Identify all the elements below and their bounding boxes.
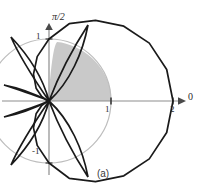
- horizontal-axis-arrow-icon: [178, 97, 186, 105]
- polar-plot-canvas: [0, 0, 206, 189]
- axis-label-zero: 0: [188, 92, 193, 102]
- figure-caption: (a): [0, 168, 206, 179]
- tick-label-vertical-one: 1: [36, 32, 41, 41]
- vertical-axis-arrow-icon: [45, 23, 53, 30]
- tick-label-vertical-negative-one: -1: [32, 147, 40, 156]
- rose-petal-left-upper-outer: [4, 85, 49, 101]
- polar-figure: π/2 0 1 -1 1 2 (a): [0, 0, 206, 189]
- tick-label-horizontal-one: 1: [105, 105, 110, 114]
- tick-label-horizontal-two: 2: [170, 105, 175, 114]
- rose-petal-lower-right: [49, 101, 88, 177]
- axis-label-pi-over-2: π/2: [52, 12, 65, 22]
- rose-petal-left-lower-outer: [4, 101, 49, 117]
